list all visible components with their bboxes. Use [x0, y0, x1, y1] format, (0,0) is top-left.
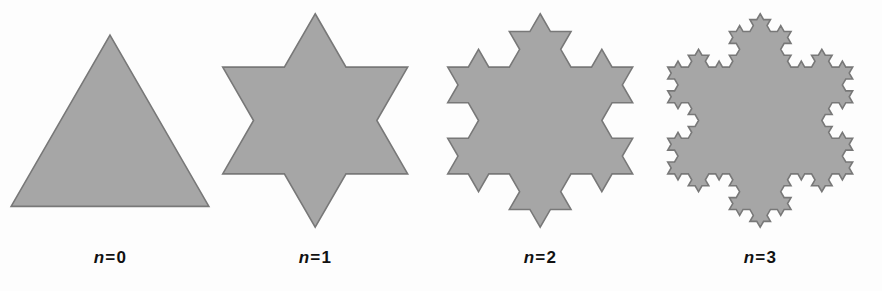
koch-snowflake-stage-2-outline [448, 14, 633, 228]
koch-snowflake-stage-2 [442, 8, 638, 233]
six-pointed-star-outline [223, 14, 408, 228]
label-equals: = [534, 248, 546, 267]
koch-figure-panel: n=0 n=1 n=2 n=3 [0, 0, 882, 291]
fractal-cell: n=3 [650, 0, 870, 291]
koch-snowflake-stage-3-outline [668, 14, 853, 228]
koch-shape-n2 [435, 8, 645, 233]
label-value: 3 [767, 248, 777, 267]
label-equals: = [104, 248, 116, 267]
koch-snowflake-stage-3 [662, 8, 858, 233]
fractal-cell: n=0 [0, 0, 220, 291]
label-variable: n [299, 248, 310, 267]
fractal-cell: n=2 [430, 0, 650, 291]
label-equals: = [309, 248, 321, 267]
iteration-label-n3: n=3 [650, 248, 870, 268]
label-variable: n [524, 248, 535, 267]
label-variable: n [744, 248, 755, 267]
koch-shape-n0 [5, 8, 215, 233]
iteration-label-n0: n=0 [0, 248, 220, 268]
equilateral-triangle [5, 29, 215, 213]
koch-shape-n3 [655, 8, 865, 233]
label-value: 2 [547, 248, 557, 267]
label-equals: = [754, 248, 766, 267]
label-variable: n [94, 248, 105, 267]
iteration-label-n2: n=2 [430, 248, 650, 268]
equilateral-triangle-outline [11, 35, 209, 206]
fractal-cell: n=1 [205, 0, 425, 291]
label-value: 0 [117, 248, 127, 267]
six-pointed-star [217, 8, 413, 233]
label-value: 1 [322, 248, 332, 267]
koch-shape-n1 [210, 8, 420, 233]
iteration-label-n1: n=1 [205, 248, 425, 268]
